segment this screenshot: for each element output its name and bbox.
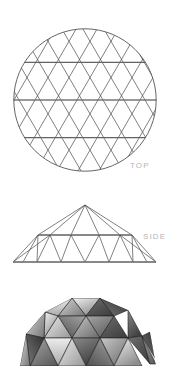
top-view-svg — [0, 0, 180, 190]
top-view-label: TOP — [130, 161, 150, 170]
top-view-diagram — [0, 0, 180, 190]
drawing-sheet: TOP — [0, 0, 180, 366]
dome-photo-svg — [0, 286, 180, 366]
side-lower-tier — [13, 235, 156, 262]
side-upper-tier — [38, 205, 132, 235]
side-view-label: SIDE — [143, 232, 166, 241]
dome-photo-view — [0, 286, 180, 366]
dome-facets — [20, 298, 156, 366]
horizontal-chords-overlay — [0, 62, 180, 137]
